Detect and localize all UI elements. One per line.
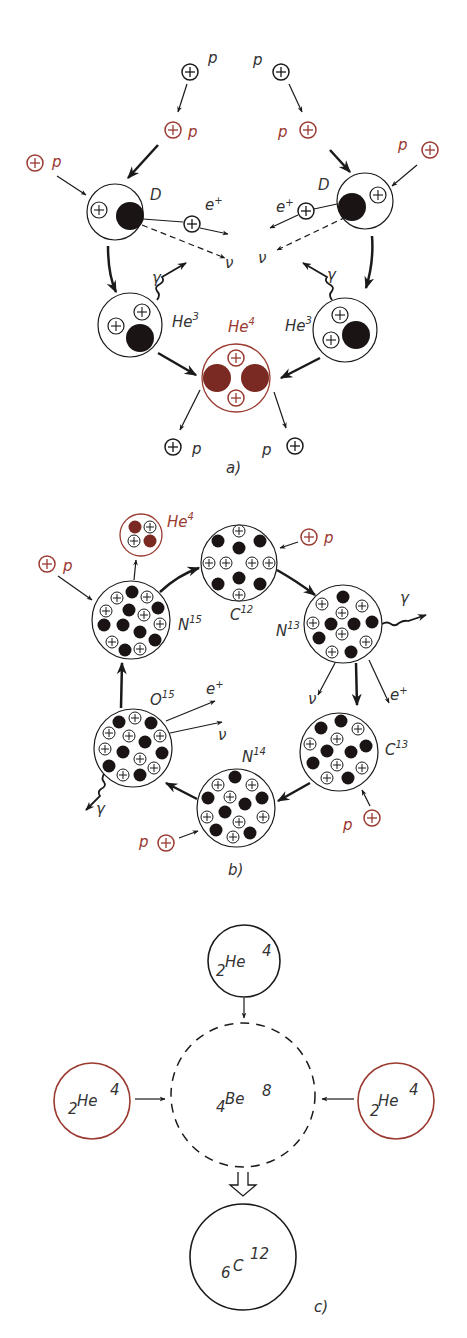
label-gamma: γ: [327, 266, 337, 284]
proton-icon: [39, 556, 55, 572]
svg-text:4: 4: [262, 942, 272, 960]
proton-icon: [165, 122, 181, 138]
label-p: p: [261, 441, 272, 459]
carbon12-nucleus: [201, 525, 277, 601]
svg-text:Be: Be: [225, 1090, 245, 1108]
label-p: p: [191, 440, 202, 458]
label-p: p: [323, 529, 334, 547]
label-c12: C12: [230, 604, 253, 624]
label-n13: N13: [276, 620, 300, 640]
helium4-top: 2 He 4: [208, 925, 280, 997]
nuclear-fusion-diagram: p p p p p p D D e+: [0, 0, 467, 1338]
label-positron: e+: [390, 685, 408, 704]
proton-icon: [364, 810, 380, 826]
label-positron: e+: [206, 679, 224, 698]
carbon12-product: 6 C 12: [190, 1204, 296, 1310]
caption-b: b): [228, 861, 243, 879]
label-he3: He3: [172, 311, 199, 331]
positron-icon: [298, 203, 314, 219]
deuterium-nucleus-left: [87, 184, 144, 240]
svg-text:C: C: [233, 1257, 244, 1275]
label-neutrino: ν: [218, 726, 226, 744]
label-n15: N15: [178, 614, 202, 634]
beryllium8-unstable: 4 Be 8: [171, 1023, 315, 1167]
panel-a-proton-proton-chain: p p p p p p D D e+: [27, 49, 438, 477]
proton-icon: [165, 439, 181, 455]
label-p: p: [252, 51, 263, 69]
nitrogen14-nucleus: [197, 769, 275, 847]
label-gamma: γ: [96, 800, 106, 818]
nitrogen13-nucleus: [304, 585, 382, 663]
label-p: p: [62, 557, 73, 575]
svg-text:He: He: [77, 1092, 98, 1110]
helium4-emitted: [120, 514, 162, 556]
helium4-right: 2 He 4: [358, 1063, 434, 1139]
helium3-nucleus-left: [98, 293, 162, 357]
label-neutrino: ν: [308, 690, 316, 708]
label-he4: He4: [167, 511, 194, 531]
label-gamma: γ: [400, 589, 410, 607]
label-p: p: [277, 123, 288, 141]
label-gamma: γ: [152, 269, 162, 287]
panel-c-triple-alpha: 2 He 4 4 Be 8 2 4 He 4 2 He 4: [54, 925, 434, 1316]
helium4-nucleus: [202, 344, 270, 412]
label-n14: N14: [242, 746, 266, 766]
proton-icon: [158, 835, 174, 851]
panel-b-cno-cycle: He4 p C12 p N15: [39, 511, 426, 879]
label-p: p: [138, 833, 149, 851]
helium3-nucleus-right: [313, 298, 377, 362]
svg-text:12: 12: [250, 1245, 269, 1263]
svg-text:He: He: [378, 1092, 399, 1110]
nitrogen15-nucleus: [92, 581, 170, 659]
carbon13-nucleus: [300, 713, 378, 791]
caption-c: c): [314, 1298, 328, 1316]
label-he4: He4: [228, 316, 255, 336]
positron-icon: [184, 216, 200, 232]
label-he3: He3: [285, 315, 312, 335]
svg-text:6: 6: [221, 1264, 231, 1282]
label-positron: e+: [205, 195, 223, 214]
proton-icon: [182, 64, 198, 80]
svg-text:4: 4: [110, 1081, 120, 1099]
proton-icon: [301, 529, 317, 545]
proton-icon: [300, 122, 316, 138]
label-deuterium: D: [318, 176, 330, 194]
svg-text:4: 4: [409, 1081, 419, 1099]
oxygen15-nucleus: [94, 709, 172, 787]
label-p: p: [342, 816, 353, 834]
label-p: p: [51, 153, 62, 171]
proton-icon: [422, 142, 438, 158]
deuterium-nucleus-right: [337, 173, 393, 229]
label-p: p: [187, 123, 198, 141]
label-positron: e+: [276, 197, 294, 216]
label-o15: O15: [150, 689, 175, 709]
proton-icon: [287, 438, 303, 454]
label-neutrino: ν: [225, 254, 233, 272]
svg-text:8: 8: [262, 1082, 272, 1100]
proton-icon: [273, 64, 289, 80]
caption-a: a): [226, 459, 241, 477]
label-c13: C13: [385, 739, 408, 759]
label-p: p: [397, 136, 408, 154]
svg-text:He: He: [225, 953, 246, 971]
label-p: p: [207, 49, 218, 67]
proton-icon: [27, 155, 43, 171]
label-neutrino: ν: [258, 249, 266, 267]
helium4-left: 2 4 He 4: [54, 1063, 130, 1139]
label-deuterium: D: [150, 186, 162, 204]
